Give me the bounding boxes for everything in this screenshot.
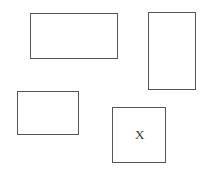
rect-bottom-left — [17, 91, 79, 135]
rect-bottom-right-label: X — [135, 127, 144, 143]
rect-top-right — [148, 12, 196, 90]
rect-top-left — [30, 13, 118, 59]
